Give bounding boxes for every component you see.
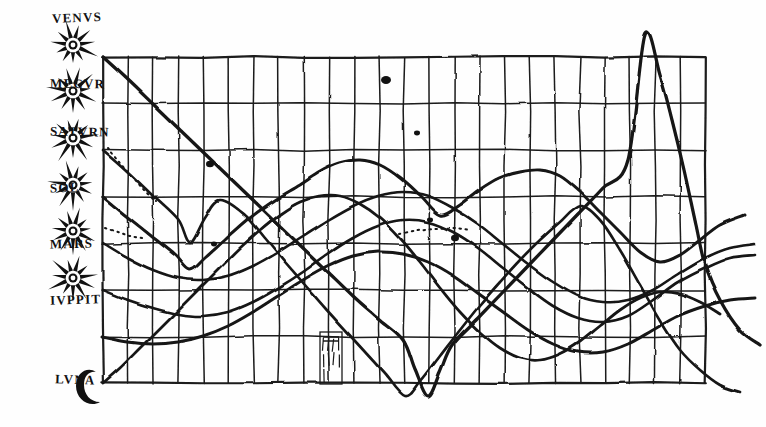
planet-label-sol: SOL <box>50 180 80 197</box>
planet-label-mercury: MECVR <box>50 76 105 93</box>
planet-label-jupiter: IVPPIT <box>50 291 102 309</box>
manuscript-chart-figure: VENVSMECVRSATVRNSOLMARSIVPPITLVNA <box>0 0 766 427</box>
planet-label-venus: VENVS <box>52 9 103 27</box>
planet-label-mars: MARS <box>50 235 93 252</box>
planet-label-column: VENVSMECVRSATVRNSOLMARSIVPPITLVNA <box>0 0 766 427</box>
planet-label-saturn: SATVRN <box>50 123 110 140</box>
planet-label-luna: LVNA <box>55 371 96 388</box>
